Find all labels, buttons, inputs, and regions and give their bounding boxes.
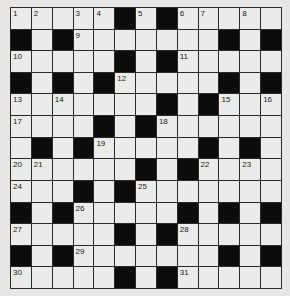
answer-cell[interactable] — [261, 138, 281, 159]
answer-cell[interactable] — [115, 94, 135, 115]
answer-cell[interactable] — [219, 51, 239, 72]
answer-cell[interactable] — [261, 116, 281, 137]
answer-cell[interactable] — [219, 181, 239, 202]
answer-cell[interactable] — [240, 30, 260, 51]
answer-cell[interactable]: 29 — [74, 246, 94, 267]
answer-cell[interactable] — [74, 51, 94, 72]
answer-cell[interactable] — [136, 94, 156, 115]
answer-cell[interactable] — [199, 51, 219, 72]
answer-cell[interactable]: 28 — [178, 224, 198, 245]
answer-cell[interactable] — [157, 159, 177, 180]
answer-cell[interactable] — [32, 51, 52, 72]
answer-cell[interactable]: 24 — [11, 181, 31, 202]
answer-cell[interactable] — [32, 181, 52, 202]
answer-cell[interactable] — [219, 224, 239, 245]
answer-cell[interactable] — [74, 73, 94, 94]
answer-cell[interactable] — [219, 138, 239, 159]
answer-cell[interactable] — [240, 94, 260, 115]
answer-cell[interactable]: 3 — [74, 8, 94, 29]
answer-cell[interactable] — [115, 30, 135, 51]
answer-cell[interactable] — [157, 73, 177, 94]
answer-cell[interactable]: 30 — [11, 267, 31, 288]
answer-cell[interactable] — [219, 116, 239, 137]
answer-cell[interactable]: 27 — [11, 224, 31, 245]
answer-cell[interactable] — [94, 267, 114, 288]
answer-cell[interactable] — [199, 267, 219, 288]
answer-cell[interactable] — [32, 116, 52, 137]
answer-cell[interactable] — [53, 8, 73, 29]
answer-cell[interactable] — [94, 224, 114, 245]
answer-cell[interactable] — [53, 159, 73, 180]
answer-cell[interactable] — [136, 51, 156, 72]
answer-cell[interactable] — [94, 30, 114, 51]
answer-cell[interactable]: 22 — [199, 159, 219, 180]
answer-cell[interactable] — [11, 138, 31, 159]
answer-cell[interactable] — [178, 246, 198, 267]
answer-cell[interactable] — [199, 181, 219, 202]
answer-cell[interactable] — [240, 246, 260, 267]
answer-cell[interactable] — [53, 51, 73, 72]
answer-cell[interactable] — [199, 246, 219, 267]
answer-cell[interactable]: 16 — [261, 94, 281, 115]
answer-cell[interactable] — [32, 94, 52, 115]
answer-cell[interactable]: 2 — [32, 8, 52, 29]
answer-cell[interactable] — [94, 203, 114, 224]
answer-cell[interactable]: 13 — [11, 94, 31, 115]
answer-cell[interactable] — [219, 8, 239, 29]
answer-cell[interactable] — [136, 73, 156, 94]
answer-cell[interactable] — [115, 246, 135, 267]
answer-cell[interactable] — [178, 181, 198, 202]
answer-cell[interactable] — [240, 51, 260, 72]
answer-cell[interactable] — [136, 30, 156, 51]
answer-cell[interactable] — [94, 51, 114, 72]
answer-cell[interactable] — [32, 224, 52, 245]
answer-cell[interactable] — [157, 138, 177, 159]
answer-cell[interactable]: 10 — [11, 51, 31, 72]
answer-cell[interactable]: 8 — [240, 8, 260, 29]
answer-cell[interactable] — [178, 116, 198, 137]
answer-cell[interactable]: 7 — [199, 8, 219, 29]
answer-cell[interactable] — [199, 116, 219, 137]
answer-cell[interactable] — [53, 138, 73, 159]
answer-cell[interactable] — [240, 203, 260, 224]
answer-cell[interactable] — [74, 116, 94, 137]
answer-cell[interactable]: 17 — [11, 116, 31, 137]
answer-cell[interactable] — [94, 159, 114, 180]
answer-cell[interactable] — [157, 203, 177, 224]
answer-cell[interactable] — [261, 51, 281, 72]
answer-cell[interactable] — [240, 267, 260, 288]
answer-cell[interactable] — [261, 224, 281, 245]
answer-cell[interactable] — [178, 73, 198, 94]
answer-cell[interactable]: 23 — [240, 159, 260, 180]
answer-cell[interactable] — [32, 73, 52, 94]
answer-cell[interactable] — [32, 267, 52, 288]
answer-cell[interactable]: 1 — [11, 8, 31, 29]
answer-cell[interactable] — [136, 138, 156, 159]
answer-cell[interactable] — [178, 138, 198, 159]
answer-cell[interactable] — [199, 203, 219, 224]
answer-cell[interactable] — [199, 224, 219, 245]
answer-cell[interactable] — [115, 138, 135, 159]
answer-cell[interactable] — [32, 30, 52, 51]
answer-cell[interactable] — [261, 267, 281, 288]
answer-cell[interactable] — [240, 116, 260, 137]
answer-cell[interactable]: 31 — [178, 267, 198, 288]
answer-cell[interactable] — [261, 159, 281, 180]
answer-cell[interactable]: 11 — [178, 51, 198, 72]
answer-cell[interactable]: 25 — [136, 181, 156, 202]
answer-cell[interactable] — [115, 116, 135, 137]
answer-cell[interactable]: 18 — [157, 116, 177, 137]
answer-cell[interactable] — [199, 30, 219, 51]
answer-cell[interactable] — [74, 224, 94, 245]
answer-cell[interactable]: 4 — [94, 8, 114, 29]
answer-cell[interactable] — [32, 203, 52, 224]
answer-cell[interactable] — [261, 8, 281, 29]
answer-cell[interactable]: 26 — [74, 203, 94, 224]
answer-cell[interactable] — [32, 246, 52, 267]
answer-cell[interactable] — [136, 203, 156, 224]
answer-cell[interactable] — [199, 73, 219, 94]
answer-cell[interactable] — [115, 203, 135, 224]
answer-cell[interactable] — [136, 224, 156, 245]
answer-cell[interactable] — [240, 224, 260, 245]
answer-cell[interactable] — [157, 181, 177, 202]
